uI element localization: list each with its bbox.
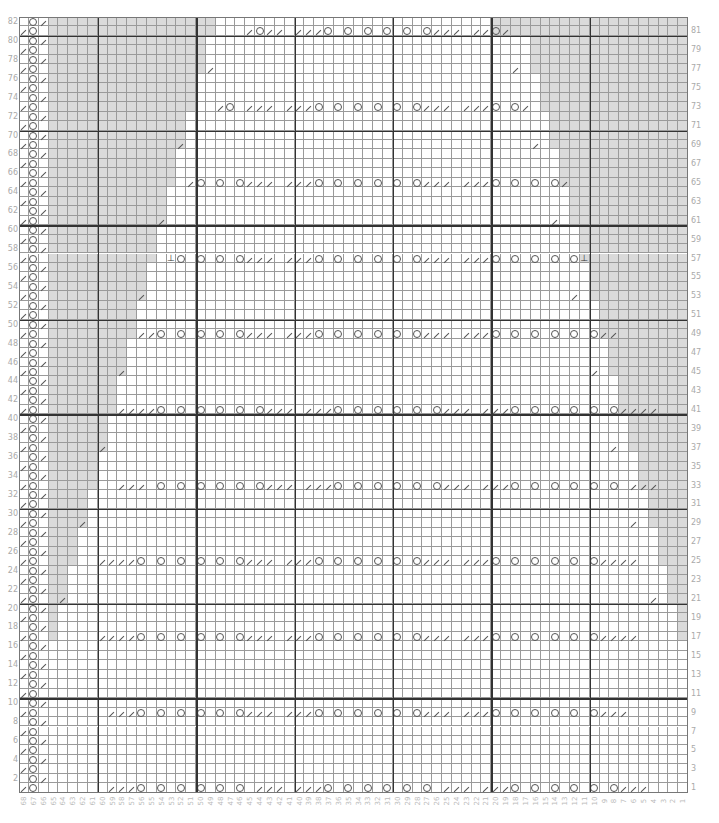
chart-cell bbox=[668, 755, 678, 764]
chart-cell bbox=[186, 783, 196, 792]
chart-cell bbox=[452, 632, 462, 641]
chart-cell bbox=[206, 651, 216, 660]
chart-cell bbox=[580, 490, 590, 499]
chart-cell bbox=[452, 149, 462, 158]
yarn-over-icon bbox=[413, 179, 421, 187]
chart-cell bbox=[452, 405, 462, 414]
k2tog-icon bbox=[601, 560, 607, 566]
k2tog-icon bbox=[40, 153, 46, 159]
chart-cell bbox=[432, 641, 442, 650]
k2tog-icon bbox=[267, 560, 273, 566]
chart-cell bbox=[285, 348, 295, 357]
chart-cell bbox=[649, 490, 659, 499]
chart-cell bbox=[324, 481, 334, 490]
chart-cell bbox=[78, 585, 88, 594]
chart-cell bbox=[668, 622, 678, 631]
chart-cell bbox=[49, 679, 59, 688]
chart-cell bbox=[550, 178, 560, 187]
chart-cell bbox=[659, 235, 669, 244]
chart-cell bbox=[580, 471, 590, 480]
chart-cell bbox=[157, 291, 167, 300]
chart-cell bbox=[501, 736, 511, 745]
chart-cell bbox=[600, 272, 610, 281]
chart-cell bbox=[373, 140, 383, 149]
chart-cell bbox=[265, 206, 275, 215]
chart-cell bbox=[68, 26, 78, 35]
chart-cell bbox=[639, 291, 649, 300]
chart-cell bbox=[108, 291, 118, 300]
chart-cell bbox=[501, 178, 511, 187]
chart-cell bbox=[432, 613, 442, 622]
yarn-over-icon bbox=[177, 255, 185, 263]
chart-cell bbox=[354, 783, 364, 792]
chart-cell bbox=[629, 339, 639, 348]
chart-cell bbox=[373, 537, 383, 546]
chart-cell bbox=[78, 433, 88, 442]
k2tog-icon bbox=[40, 267, 46, 273]
chart-cell bbox=[78, 660, 88, 669]
chart-cell bbox=[560, 651, 570, 660]
chart-cell bbox=[363, 112, 373, 121]
chart-cell bbox=[422, 689, 432, 698]
chart-cell bbox=[511, 339, 521, 348]
chart-cell bbox=[521, 774, 531, 783]
chart-cell bbox=[481, 93, 491, 102]
chart-cell bbox=[255, 689, 265, 698]
chart-cell bbox=[619, 235, 629, 244]
yarn-over-icon bbox=[324, 784, 332, 792]
chart-cell bbox=[157, 490, 167, 499]
chart-cell bbox=[68, 736, 78, 745]
chart-cell bbox=[600, 651, 610, 660]
chart-cell bbox=[413, 641, 423, 650]
chart-cell bbox=[600, 291, 610, 300]
k2tog-icon bbox=[267, 484, 273, 490]
chart-cell bbox=[147, 282, 157, 291]
yarn-over-icon bbox=[29, 576, 37, 584]
yarn-over-icon bbox=[531, 482, 539, 490]
chart-cell bbox=[639, 632, 649, 641]
chart-cell bbox=[354, 566, 364, 575]
chart-cell bbox=[649, 745, 659, 754]
chart-cell bbox=[117, 490, 127, 499]
chart-cell bbox=[432, 197, 442, 206]
chart-cell bbox=[39, 679, 49, 688]
chart-cell bbox=[117, 736, 127, 745]
chart-cell bbox=[255, 272, 265, 281]
yarn-over-icon bbox=[413, 482, 421, 490]
chart-cell bbox=[422, 140, 432, 149]
row-label-right: 79 bbox=[691, 45, 709, 54]
grid-major-hline bbox=[19, 320, 688, 322]
chart-cell bbox=[659, 764, 669, 773]
k2tog-icon bbox=[208, 68, 214, 74]
chart-cell bbox=[541, 471, 551, 480]
chart-cell bbox=[19, 45, 29, 54]
chart-cell bbox=[413, 263, 423, 272]
chart-cell bbox=[39, 566, 49, 575]
chart-cell bbox=[304, 339, 314, 348]
chart-cell bbox=[560, 708, 570, 717]
k2tog-icon bbox=[631, 787, 637, 793]
chart-cell bbox=[265, 481, 275, 490]
chart-cell bbox=[78, 168, 88, 177]
chart-cell bbox=[314, 301, 324, 310]
k2tog-icon bbox=[99, 560, 105, 566]
chart-cell bbox=[413, 566, 423, 575]
chart-cell bbox=[334, 149, 344, 158]
chart-cell bbox=[678, 594, 688, 603]
chart-cell bbox=[668, 263, 678, 272]
chart-cell bbox=[452, 17, 462, 26]
chart-cell bbox=[678, 528, 688, 537]
chart-cell bbox=[462, 575, 472, 584]
chart-cell bbox=[167, 452, 177, 461]
chart-cell bbox=[422, 244, 432, 253]
chart-cell bbox=[137, 301, 147, 310]
chart-cell bbox=[442, 358, 452, 367]
chart-cell bbox=[245, 93, 255, 102]
chart-cell bbox=[403, 717, 413, 726]
chart-cell bbox=[462, 17, 472, 26]
k2tog-icon bbox=[257, 636, 263, 642]
chart-cell bbox=[137, 254, 147, 263]
chart-cell bbox=[383, 26, 393, 35]
chart-cell bbox=[314, 443, 324, 452]
chart-cell bbox=[216, 83, 226, 92]
